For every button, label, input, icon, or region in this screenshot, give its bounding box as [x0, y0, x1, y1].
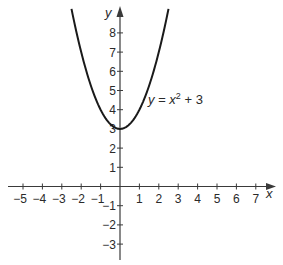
ticks: −5−4−3−2−11234567−3−2−112345678 [13, 26, 259, 251]
equation-main: y = x [147, 92, 176, 107]
x-tick-label: 1 [136, 192, 143, 206]
y-tick-label: 1 [109, 161, 116, 175]
x-tick-label: 6 [233, 192, 240, 206]
x-tick-label: −5 [13, 192, 27, 206]
x-tick-label: 2 [155, 192, 162, 206]
x-tick-label: 7 [252, 192, 259, 206]
y-tick-label: 7 [109, 46, 116, 60]
x-tick-label: 4 [194, 192, 201, 206]
x-axis-label: x [265, 186, 273, 201]
y-tick-label: −1 [102, 199, 116, 213]
x-tick-label: 3 [175, 192, 182, 206]
y-axis-label: y [104, 5, 113, 20]
y-axis-arrow-icon [117, 6, 124, 17]
x-tick-label: −2 [71, 192, 85, 206]
parabola-chart: −5−4−3−2−11234567−3−2−112345678 x y y = … [0, 0, 283, 265]
y-tick-label: 8 [109, 26, 116, 40]
x-tick-label: −3 [52, 192, 66, 206]
y-tick-label: 2 [109, 142, 116, 156]
y-tick-label: −2 [102, 218, 116, 232]
y-tick-label: 6 [109, 65, 116, 79]
x-tick-label: −4 [33, 192, 47, 206]
equation-label: y = x2 + 3 [147, 91, 203, 107]
y-tick-label: −3 [102, 238, 116, 252]
equation-tail: + 3 [181, 92, 203, 107]
y-tick-label: 4 [109, 103, 116, 117]
y-tick-label: 5 [109, 84, 116, 98]
axes [8, 6, 276, 260]
x-tick-label: 5 [214, 192, 221, 206]
